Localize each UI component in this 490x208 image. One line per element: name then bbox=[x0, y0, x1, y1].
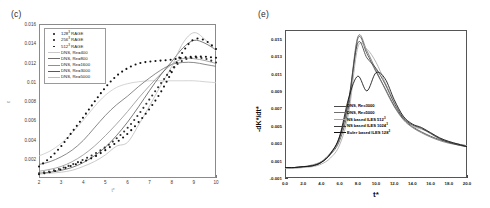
panel-c-x-axis-label: t* bbox=[111, 188, 114, 193]
dot-icon bbox=[53, 46, 55, 48]
line-icon bbox=[334, 112, 346, 113]
panel-e-y-tick: 0.013 bbox=[255, 54, 282, 59]
legend-label: 2563 RAGE bbox=[61, 37, 83, 43]
panel-c-label: (c) bbox=[11, 9, 22, 19]
panel-e-y-tick: 0.015 bbox=[255, 36, 282, 41]
panel-e-x-tick: 0.0 bbox=[282, 181, 288, 186]
panel-c-x-tick: 2 bbox=[38, 180, 41, 185]
panel-c-x-tick: 8 bbox=[170, 180, 173, 185]
panel-e-x-tick: 4.0 bbox=[318, 181, 324, 186]
panel-e-y-tick: 0.001 bbox=[255, 158, 282, 163]
legend-marker-line-icon bbox=[47, 74, 61, 80]
legend-marker-line-icon bbox=[333, 129, 347, 136]
line-icon bbox=[334, 119, 346, 120]
panel-e-x-tick: 12.0 bbox=[390, 181, 399, 186]
legend-item: Euler based ILES 1283 bbox=[333, 129, 425, 136]
panel-c-y-tick: 0.01 bbox=[6, 79, 36, 84]
legend-label: DNS, Re=3000 bbox=[347, 104, 375, 108]
panel-e-x-tick: 10.0 bbox=[372, 181, 381, 186]
line-icon bbox=[334, 126, 346, 127]
panel-c: (c) ε t* 0.0020.0040.0060.0080.010.0120.… bbox=[0, 0, 245, 208]
panel-e-y-tick: 0.009 bbox=[255, 88, 282, 93]
legend-label: DNS, Re=1600 bbox=[61, 63, 90, 67]
panel-c-x-tick: 10 bbox=[213, 180, 218, 185]
panel-e-x-tick: 14.0 bbox=[408, 181, 417, 186]
legend-label: DNS, Re=3000 bbox=[61, 69, 90, 73]
panel-e-x-tick: 16.0 bbox=[426, 181, 435, 186]
legend-label: DNS, Re=5000 bbox=[347, 111, 375, 115]
panel-e-x-tick: 20.0 bbox=[463, 181, 472, 186]
panel-e-y-tick: -0.001 bbox=[255, 176, 282, 181]
line-icon bbox=[48, 58, 60, 59]
line-icon bbox=[334, 106, 346, 107]
panel-c-y-tick: 0.008 bbox=[6, 99, 36, 104]
panel-e-x-tick: 18.0 bbox=[445, 181, 454, 186]
panel-c-x-tick: 7 bbox=[148, 180, 151, 185]
legend-label: NS based ILES 10243 bbox=[347, 123, 388, 128]
legend-item: DNS, Re=5000 bbox=[47, 74, 103, 80]
line-icon bbox=[48, 65, 60, 66]
panel-c-x-tick: 4 bbox=[82, 180, 85, 185]
panel-c-y-tick: 0.014 bbox=[6, 41, 36, 46]
panel-c-x-tick: 6 bbox=[126, 180, 129, 185]
panel-e-y-tick: 0.005 bbox=[255, 123, 282, 128]
legend-label: NS based ILES 5123 bbox=[347, 117, 385, 122]
panel-c-y-tick: 0.016 bbox=[6, 22, 36, 27]
dot-icon bbox=[53, 33, 55, 35]
panel-e-x-axis-label: t* bbox=[373, 190, 379, 199]
panel-c-x-tickmark bbox=[216, 175, 217, 178]
legend-item: DNS, Re=5000 bbox=[333, 110, 425, 117]
line-icon bbox=[48, 71, 60, 72]
legend-label: DNS, Re=5000 bbox=[61, 75, 90, 79]
line-icon bbox=[48, 52, 60, 53]
panel-c-y-tick: 0.012 bbox=[6, 60, 36, 65]
panel-e: (e) -dK*/dt* t* -0.0010.0010.0030.0050.0… bbox=[245, 0, 490, 208]
legend-label: DNS, Re=800 bbox=[61, 57, 88, 61]
line-icon bbox=[334, 132, 346, 133]
panel-e-x-tick: 8.0 bbox=[355, 181, 361, 186]
figure-container: (c) ε t* 0.0020.0040.0060.0080.010.0120.… bbox=[0, 0, 490, 208]
panel-e-y-tick: 0.003 bbox=[255, 141, 282, 146]
legend-label: 5123 RAGE bbox=[61, 44, 83, 50]
legend-marker-line-icon bbox=[333, 123, 347, 130]
legend-marker-line-icon bbox=[333, 116, 347, 123]
panel-e-y-tickmark bbox=[285, 178, 288, 179]
panel-e-x-tick: 2.0 bbox=[300, 181, 306, 186]
panel-c-x-tick: 3 bbox=[60, 180, 63, 185]
panel-c-x-tick: 5 bbox=[104, 180, 107, 185]
legend-marker-line-icon bbox=[333, 103, 347, 110]
dot-icon bbox=[53, 39, 55, 41]
panel-e-y-tick: 0.007 bbox=[255, 106, 282, 111]
panel-c-y-tick: 0.004 bbox=[6, 137, 36, 142]
panel-c-y-tick: 0.006 bbox=[6, 118, 36, 123]
legend-label: Euler based ILES 1283 bbox=[347, 130, 390, 135]
panel-e-label: (e) bbox=[258, 9, 269, 19]
panel-e-legend: DNS, Re=3000DNS, Re=5000NS based ILES 51… bbox=[333, 103, 425, 136]
panel-e-x-tick: 6.0 bbox=[337, 181, 343, 186]
legend-item: NS based ILES 5123 bbox=[333, 116, 425, 123]
legend-marker-line-icon bbox=[333, 110, 347, 117]
legend-item: DNS, Re=3000 bbox=[333, 103, 425, 110]
line-icon bbox=[48, 77, 60, 78]
panel-e-x-tickmark bbox=[467, 175, 468, 178]
legend-label: DNS, Re=400 bbox=[61, 51, 88, 55]
legend-item: NS based ILES 10243 bbox=[333, 123, 425, 130]
panel-c-x-tick: 9 bbox=[193, 180, 196, 185]
panel-c-legend: 1283 RAGE2563 RAGE5123 RAGEDNS, Re=400DN… bbox=[44, 28, 106, 84]
panel-e-y-tick: 0.011 bbox=[255, 71, 282, 76]
panel-c-y-tick: 0.002 bbox=[6, 156, 36, 161]
legend-label: 1283 RAGE bbox=[61, 31, 83, 37]
